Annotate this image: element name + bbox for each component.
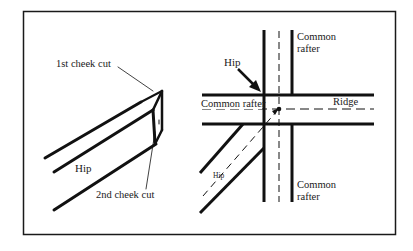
second-cheek-cut-leader	[146, 132, 155, 189]
ridge-label: Ridge	[333, 96, 358, 107]
hip-bottom-edge	[54, 144, 156, 210]
hip-plan-upper-edge	[200, 124, 243, 173]
hip-pointer-arrow-shaft	[238, 69, 255, 86]
first-cheek-cut-leader	[118, 67, 153, 91]
hip-plan-lower-edge	[200, 148, 264, 213]
common-rafter-bottom-line2: rafter	[297, 191, 320, 202]
common-rafter-left-label: Common rafter	[201, 98, 266, 109]
hip-pointer-label: Hip	[224, 56, 241, 68]
hip-middle-edge	[54, 110, 153, 172]
common-rafter-top-line1: Common	[297, 31, 337, 42]
common-rafter-top-label: Common rafter	[297, 31, 339, 54]
roof-hip-diagram: 1st cheek cut Hip 2nd cheek cut Common r…	[0, 0, 413, 251]
common-rafter-bottom-line1: Common	[297, 179, 337, 190]
hip-top-edge	[45, 102, 141, 158]
first-cheek-cut-label: 1st cheek cut	[56, 58, 111, 69]
common-rafter-top-line2: rafter	[297, 43, 320, 54]
hip-label-left: Hip	[75, 162, 92, 174]
second-cheek-cut-label: 2nd cheek cut	[96, 189, 154, 200]
cheek-bottom-edge	[156, 130, 162, 142]
hip-inclined-label: Hip	[213, 171, 225, 180]
common-rafter-bottom-label: Common rafter	[297, 179, 339, 202]
